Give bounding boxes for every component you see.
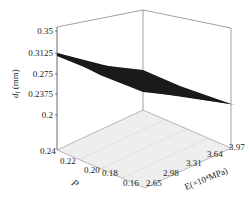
e-tick-2: 3.31: [186, 158, 202, 168]
e-axis-label: E(×10⁴MPa): [183, 165, 229, 191]
z-tick-4: 0.2: [42, 110, 53, 120]
p-tick-1: 0.22: [60, 156, 76, 166]
p-tick-0: 0.24: [40, 146, 56, 156]
z-tick-2: 0.275: [33, 69, 54, 79]
p-tick-3: 0.18: [102, 168, 118, 178]
p-tick-4: 0.16: [123, 178, 139, 188]
e-tick-1: 2.98: [163, 168, 179, 178]
p-axis-label: P: [69, 176, 81, 189]
e-tick-3: 3.64: [207, 149, 223, 159]
surface-chart: 0.35 0.3125 0.275 0.2375 0.2 df (mm) 0.2…: [0, 0, 251, 197]
p-tick-2: 0.20: [84, 165, 100, 175]
e-tick-0: 2.65: [146, 178, 162, 188]
z-tick-1: 0.3125: [28, 48, 53, 58]
surface-body: [57, 53, 231, 104]
z-axis-label: df (mm): [10, 69, 21, 98]
z-tick-labels: 0.35 0.3125 0.275 0.2375 0.2: [28, 26, 53, 120]
e-tick-4: 3.97: [229, 142, 245, 152]
z-tick-0: 0.35: [37, 26, 53, 36]
z-tick-3: 0.2375: [28, 89, 53, 99]
